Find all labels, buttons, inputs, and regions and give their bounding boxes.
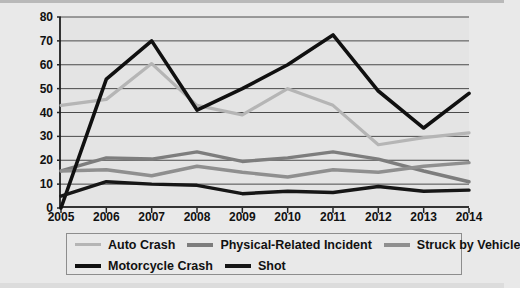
y-tick-label: 70 [23, 35, 53, 47]
x-tick-label: 2008 [174, 211, 220, 223]
x-tick-label: 2007 [129, 211, 175, 223]
y-tick-label: 30 [23, 130, 53, 142]
x-tick-label: 2014 [446, 211, 492, 223]
legend-label: Physical-Related Incident [220, 238, 371, 252]
legend-swatch-icon [225, 264, 251, 268]
y-tick-label: 50 [23, 83, 53, 95]
legend-row: Motorcycle CrashShot [67, 255, 461, 276]
x-tick-label: 2010 [265, 211, 311, 223]
x-tick-label: 2013 [401, 211, 447, 223]
series-lines [61, 35, 469, 208]
legend-item-shot[interactable]: Shot [225, 259, 286, 273]
legend-swatch-icon [384, 243, 410, 247]
x-tick-label: 2011 [310, 211, 356, 223]
x-tick-label: 2009 [219, 211, 265, 223]
legend-label: Struck by Vehicle [417, 238, 520, 252]
legend: Auto CrashPhysical-Related IncidentStruc… [66, 233, 462, 275]
y-tick-label: 80 [23, 11, 53, 23]
y-tick-label: 40 [23, 107, 53, 119]
bottom-border-band [0, 283, 504, 288]
legend-swatch-icon [75, 264, 101, 268]
legend-item-struck-by-vehicle[interactable]: Struck by Vehicle [384, 238, 520, 252]
legend-label: Shot [258, 259, 286, 273]
legend-label: Auto Crash [108, 238, 175, 252]
legend-label: Motorcycle Crash [108, 259, 213, 273]
x-tick-label: 2005 [38, 211, 84, 223]
x-tick-label: 2012 [355, 211, 401, 223]
legend-item-auto-crash[interactable]: Auto Crash [75, 238, 175, 252]
y-tick-label: 20 [23, 154, 53, 166]
legend-item-physical-related-incident[interactable]: Physical-Related Incident [187, 238, 371, 252]
series-line-struck-by-vehicle [61, 163, 469, 177]
legend-item-motorcycle-crash[interactable]: Motorcycle Crash [75, 259, 213, 273]
legend-row: Auto CrashPhysical-Related IncidentStruc… [67, 234, 461, 255]
y-tick-label: 10 [23, 178, 53, 190]
legend-swatch-icon [187, 243, 213, 247]
x-tick-label: 2006 [83, 211, 129, 223]
y-tick-label: 60 [23, 59, 53, 71]
legend-swatch-icon [75, 243, 101, 246]
y-tick-marks [57, 17, 61, 208]
